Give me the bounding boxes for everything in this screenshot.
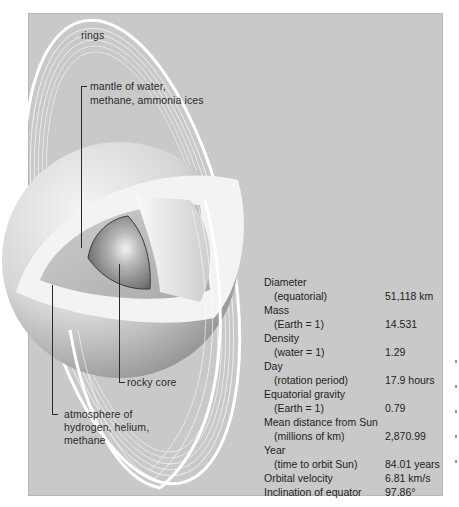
stat-value: 97.86° (385, 485, 415, 499)
mantle-leader-line (81, 86, 82, 248)
stat-row: Mass (264, 303, 444, 317)
mantle-label-line2: methane, ammonia ices (90, 94, 204, 107)
planet-stats-table: Diameter (equatorial)51,118 km Mass (Ear… (264, 275, 444, 499)
stat-row: Day (264, 359, 444, 373)
stat-row: (equatorial)51,118 km (264, 289, 444, 303)
atmosphere-label-line1: atmosphere of (64, 408, 132, 421)
mantle-label-line1: mantle of water, (90, 80, 166, 93)
stat-value: 2,870.99 (385, 429, 426, 443)
stat-row: (rotation period)17.9 hours (264, 373, 444, 387)
core-label: rocky core (127, 376, 176, 389)
rings-label: rings (81, 29, 104, 42)
stat-label: (Earth = 1) (274, 317, 324, 331)
stat-value: 0.79 (385, 401, 405, 415)
stat-label: Year (264, 443, 285, 457)
stat-value: 17.9 hours (385, 373, 435, 387)
stat-row: (millions of km)2,870.99 (264, 429, 444, 443)
stat-label: Equatorial gravity (264, 387, 345, 401)
atmosphere-label-line3: methane (64, 434, 106, 447)
stat-row: (Earth = 1)0.79 (264, 401, 444, 415)
stat-row: Density (264, 331, 444, 345)
mantle-leader-tick (81, 86, 87, 87)
core-leader-tick (119, 382, 125, 383)
stat-label: (time to orbit Sun) (274, 457, 357, 471)
stat-row: Year (264, 443, 444, 457)
stat-label: Mean distance from Sun (264, 415, 378, 429)
stat-row: Inclination of equator97.86° (264, 485, 444, 499)
stat-row: (time to orbit Sun)84.01 years (264, 457, 444, 471)
stat-value: 84.01 years (385, 457, 440, 471)
stat-value: 51,118 km (385, 289, 433, 303)
stat-row: Mean distance from Sun (264, 415, 444, 429)
stat-label: (water = 1) (274, 345, 324, 359)
stat-label: Inclination of equator (264, 485, 361, 499)
stat-label: (Earth = 1) (274, 401, 324, 415)
stat-label: Orbital velocity (264, 471, 333, 485)
stat-value: 1.29 (385, 345, 405, 359)
stat-value: 14.531 (385, 317, 417, 331)
stat-label: Mass (264, 303, 289, 317)
stat-row: Orbital velocity6.81 km/s (264, 471, 444, 485)
atmosphere-label-line2: hydrogen, helium, (64, 421, 149, 434)
atmosphere-leader-line (52, 285, 53, 415)
atmosphere-leader-tick (52, 414, 58, 415)
stat-label: Day (264, 359, 283, 373)
core-leader-line (119, 264, 120, 383)
stat-label: (rotation period) (274, 373, 348, 387)
stat-label: (equatorial) (274, 289, 327, 303)
stat-label: Density (264, 331, 299, 345)
stat-row: Equatorial gravity (264, 387, 444, 401)
stat-row: (water = 1)1.29 (264, 345, 444, 359)
stat-label: (millions of km) (274, 429, 345, 443)
stat-row: Diameter (264, 275, 444, 289)
stat-label: Diameter (264, 275, 307, 289)
stat-value: 6.81 km/s (385, 471, 431, 485)
stat-row: (Earth = 1)14.531 (264, 317, 444, 331)
page-edge-marks (455, 360, 459, 500)
